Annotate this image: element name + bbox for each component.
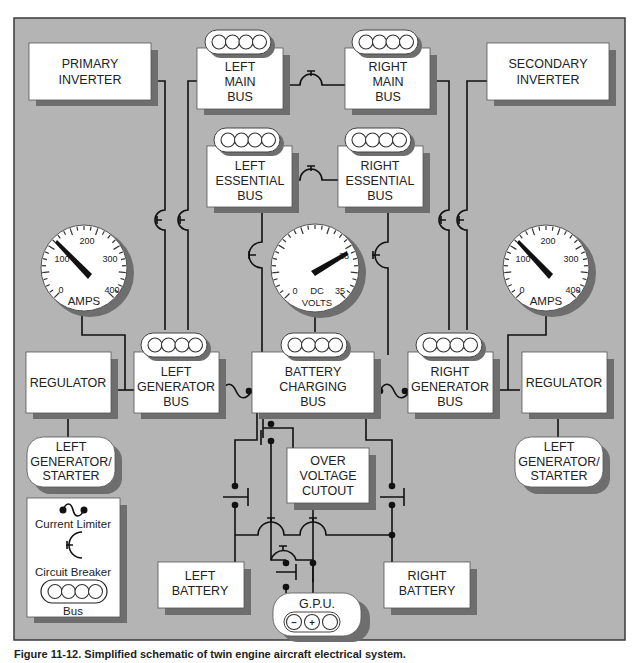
- label: REGULATOR: [526, 376, 603, 390]
- label: OVER: [310, 454, 345, 468]
- label: ESSENTIAL: [346, 174, 415, 188]
- tick-label: 35: [335, 286, 345, 296]
- label: BATTERY: [172, 584, 229, 598]
- left-generator-starter: LEFT GENERATOR/ STARTER: [27, 437, 122, 494]
- tick-label: 400: [104, 285, 119, 295]
- label: RIGHT: [369, 60, 408, 74]
- label: MAIN: [224, 75, 255, 89]
- label: REGULATOR: [30, 376, 107, 390]
- gpu-receptacle: G.P.U. − +: [273, 593, 370, 642]
- terminal-icon: [323, 615, 338, 630]
- bus-symbol-icon: [41, 580, 107, 603]
- legend-label: Current Limiter: [35, 518, 111, 530]
- label: PRIMARY: [62, 57, 119, 71]
- label: GENERATOR: [137, 380, 215, 394]
- label: LEFT: [544, 440, 575, 454]
- label: LEFT: [56, 440, 87, 454]
- label: CHARGING: [279, 380, 346, 394]
- label: BUS: [237, 189, 263, 203]
- label: GENERATOR: [411, 380, 489, 394]
- label: STARTER: [530, 469, 587, 483]
- legend: Current Limiter Circuit Breaker Bus: [27, 498, 127, 623]
- bus-icon: [214, 128, 284, 156]
- figure-caption: Figure 11-12. Simplified schematic of tw…: [14, 648, 406, 660]
- label: LEFT: [185, 569, 216, 583]
- label: BUS: [163, 395, 189, 409]
- bus-icon: [416, 333, 486, 361]
- label: SECONDARY: [509, 57, 589, 71]
- tick-label: 300: [102, 254, 117, 264]
- left-regulator: REGULATOR: [26, 352, 118, 419]
- label: RIGHT: [408, 569, 447, 583]
- tick-label: 0: [292, 286, 297, 296]
- label: ESSENTIAL: [216, 174, 285, 188]
- right-regulator: REGULATOR: [522, 352, 614, 419]
- label: INVERTER: [517, 73, 580, 87]
- label: CUTOUT: [302, 484, 354, 498]
- gauge-unit: DC: [310, 285, 324, 296]
- label: LEFT: [225, 60, 256, 74]
- right-battery: RIGHT BATTERY: [384, 562, 477, 615]
- label: INVERTER: [59, 73, 122, 87]
- label: BUS: [367, 189, 393, 203]
- primary-inverter: PRIMARY INVERTER: [29, 43, 158, 106]
- tick-label: 200: [79, 236, 94, 246]
- label: BATTERY: [399, 584, 456, 598]
- gauge-unit: AMPS: [68, 295, 101, 307]
- over-voltage-cutout: OVER VOLTAGE CUTOUT: [287, 448, 376, 510]
- legend-label: Bus: [63, 605, 83, 617]
- minus-symbol: −: [291, 617, 297, 628]
- legend-label: Circuit Breaker: [35, 566, 111, 578]
- label: GENERATOR/: [518, 455, 600, 469]
- label: RIGHT: [431, 365, 470, 379]
- bus-icon: [281, 333, 351, 361]
- bus-icon: [141, 333, 211, 361]
- label: STARTER: [42, 469, 99, 483]
- bus-icon: [205, 30, 275, 58]
- label: BUS: [375, 90, 401, 104]
- tick-label: 0: [58, 285, 63, 295]
- tick-label: 0: [519, 285, 524, 295]
- gauge-unit: VOLTS: [302, 297, 332, 308]
- tick-label: 300: [563, 254, 578, 264]
- label: MAIN: [372, 75, 403, 89]
- electrical-schematic: PRIMARY INVERTER LEFT MAIN BUS RIGHT MAI…: [0, 0, 641, 663]
- tick-label: 400: [565, 285, 580, 295]
- label: VOLTAGE: [299, 469, 356, 483]
- label: LEFT: [235, 159, 266, 173]
- tick-label: 200: [540, 236, 555, 246]
- label: BUS: [227, 90, 253, 104]
- bus-icon: [345, 128, 415, 156]
- plus-symbol: +: [309, 617, 315, 628]
- bus-icon: [352, 30, 422, 58]
- right-generator-starter: LEFT GENERATOR/ STARTER: [515, 437, 610, 494]
- label: RIGHT: [361, 159, 400, 173]
- left-battery: LEFT BATTERY: [158, 562, 251, 615]
- secondary-inverter: SECONDARY INVERTER: [487, 43, 616, 106]
- gauge-unit: AMPS: [530, 295, 563, 307]
- label: LEFT: [161, 365, 192, 379]
- label: GENERATOR/: [30, 455, 112, 469]
- label: BUS: [437, 395, 463, 409]
- label: BUS: [300, 395, 326, 409]
- label: G.P.U.: [299, 597, 335, 611]
- label: BATTERY: [285, 365, 342, 379]
